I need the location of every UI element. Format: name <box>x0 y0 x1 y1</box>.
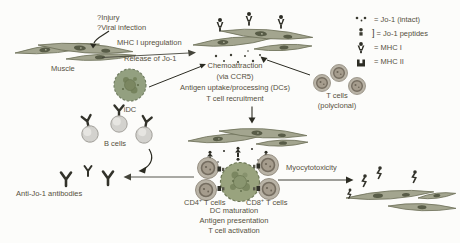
bcell-antibody-arrow <box>139 149 152 174</box>
release-jo1-label: Release of Jo-1 <box>124 54 177 64</box>
legend-row-jo1-peptides: ] = Jo-1 peptides <box>352 27 428 39</box>
myocytotoxicity-label: Myocytotoxicity <box>286 163 337 173</box>
chemoattraction-line1: Chemoattraction <box>187 61 283 72</box>
muscle-label: Muscle <box>51 64 75 74</box>
jo1-intact-icon <box>352 13 370 25</box>
anti-jo1-antibodies-label: Anti-Jo-1 antibodies <box>16 189 82 199</box>
chemoattraction-label: Chemoattraction (via CCR5) <box>187 61 283 82</box>
uptake-label: Antigen uptake/processing (DCs) T cell r… <box>172 83 298 104</box>
muscle-cells-center-bottom <box>188 127 308 147</box>
t-cell <box>331 65 348 82</box>
t-cell <box>258 155 279 176</box>
legend-bracket: ] <box>372 29 375 38</box>
trigger-line2: ?Viral infection <box>97 23 146 33</box>
idc-label: iDC <box>120 105 140 115</box>
diagram-canvas: ?Injury ?Viral infection Muscle MHC I up… <box>0 0 460 243</box>
activation-label: DC maturation Antigen presentation T cel… <box>169 206 299 236</box>
tcells-polyclonal-group <box>314 65 366 95</box>
idc-cell <box>114 69 146 101</box>
legend-label-jo1-peptides: = Jo-1 peptides <box>377 29 429 38</box>
jo1-peptides-icon <box>352 27 370 39</box>
t-cell <box>198 158 219 179</box>
legend-label-mhc-ii: = MHC II <box>374 57 404 66</box>
mhc-ii-icon <box>352 56 370 68</box>
muscle-cells-center-top <box>193 27 313 52</box>
bcells-label: B cells <box>104 139 126 149</box>
mhc-upregulation-label: MHC I upregulation <box>117 38 182 48</box>
activation-line2: Antigen presentation <box>169 216 299 226</box>
activation-line1: DC maturation <box>169 206 299 216</box>
legend: = Jo-1 (intact) ] = Jo-1 peptides = MHC … <box>352 13 428 68</box>
antibody-y-icons <box>61 166 113 186</box>
uptake-line1: Antigen uptake/processing (DCs) <box>172 83 298 94</box>
down-arrow <box>249 107 256 124</box>
mhc-i-icon <box>352 41 370 54</box>
myocytotoxicity-arrow <box>278 177 354 184</box>
b-cell <box>135 115 156 144</box>
mhc-i-molecule-icons <box>217 12 285 32</box>
trigger-line1: ?Injury <box>97 13 146 23</box>
antibody-production-arrow <box>124 174 195 181</box>
legend-label-jo1-intact: = Jo-1 (intact) <box>374 15 420 24</box>
trigger-label: ?Injury ?Viral infection <box>97 13 146 33</box>
tcells-line1: T cells <box>301 91 373 101</box>
legend-row-mhc-i: = MHC I <box>352 41 428 53</box>
tcells-polyclonal-label: T cells (polyclonal) <box>301 91 373 110</box>
legend-label-mhc-i: = MHC I <box>374 43 402 52</box>
activation-line3: T cell activation <box>169 226 299 236</box>
chemoattraction-line2: (via CCR5) <box>187 72 283 83</box>
muscle-cells-attacked <box>346 188 456 212</box>
t-cell <box>314 75 331 92</box>
legend-row-jo1-intact: = Jo-1 (intact) <box>352 13 428 25</box>
uptake-line2: T cell recruitment <box>172 94 298 105</box>
tcells-line2: (polyclonal) <box>301 101 373 111</box>
b-cell <box>78 114 100 144</box>
legend-row-mhc-ii: = MHC II <box>352 56 428 68</box>
